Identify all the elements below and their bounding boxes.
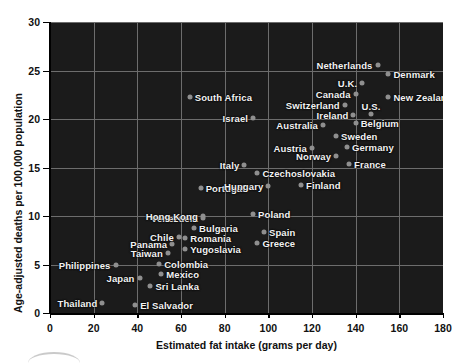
data-point [187,94,192,99]
data-point [360,81,365,86]
x-tick-label: 20 [88,322,100,334]
page-artifact-mark [28,352,80,363]
data-point [251,212,256,217]
y-axis-line [49,22,51,314]
data-point [157,261,162,266]
y-tick [43,168,49,169]
x-tick [225,313,226,318]
data-point-label: Thailand [58,298,98,309]
gridline-vertical [399,22,400,313]
data-point-label: U.S. [361,101,380,112]
data-point [375,62,380,67]
data-point-label: Ireland [317,110,349,121]
y-tick-label: 30 [28,16,40,28]
x-tick [94,313,95,318]
data-point-label: Hong Kong [146,211,198,222]
data-point [100,301,105,306]
data-point [353,91,358,96]
data-point [198,185,203,190]
scatter-plot-figure: ThailandEl SalvadorSri LankaJapanMexicoP… [0,0,453,364]
data-point [159,272,164,277]
data-point [310,146,315,151]
data-point [255,241,260,246]
data-point [347,161,352,166]
x-axis-title: Estimated fat intake (grams per day) [50,339,443,351]
gridline-horizontal [50,216,443,217]
data-point-label: Netherlands [316,59,372,70]
data-point-label: Hungary [224,180,263,191]
data-point [242,162,247,167]
data-point-label: Japan [107,273,135,284]
data-point [353,120,358,125]
y-tick-label: 0 [34,307,40,319]
x-tick-label: 100 [260,322,278,334]
data-point-label: Romania [190,233,231,244]
x-tick [443,313,444,318]
data-point [200,214,205,219]
y-tick [43,265,49,266]
data-point-label: Belgium [361,117,399,128]
y-tick-label: 5 [34,259,40,271]
data-point-label: Colombia [164,258,208,269]
data-point-label: Greece [262,238,295,249]
data-point-label: Czechoslovakia [262,168,335,179]
x-tick [312,313,313,318]
data-point-label: Germany [352,142,394,153]
x-tick [399,313,400,318]
x-tick-label: 80 [219,322,231,334]
gridline-horizontal [50,22,443,23]
data-point [192,225,197,230]
data-point [183,236,188,241]
x-tick-label: 0 [47,322,53,334]
data-point-label: Spain [269,226,295,237]
data-point [176,235,181,240]
data-point-label: Sri Lanka [155,280,199,291]
x-tick [137,313,138,318]
data-point [320,122,325,127]
data-point [183,246,188,251]
data-point-label: Poland [258,209,290,220]
y-tick [43,22,49,23]
data-point [148,283,153,288]
x-tick [356,313,357,318]
data-point [255,171,260,176]
data-point [344,145,349,150]
data-point-label: U.K. [338,78,357,89]
data-point-label: Yugoslavia [190,243,241,254]
data-point [342,103,347,108]
data-point-label: Mexico [166,269,199,280]
x-tick-label: 140 [347,322,365,334]
data-point [266,183,271,188]
data-point-label: Austria [274,143,307,154]
x-tick-label: 160 [391,322,409,334]
data-point-label: Italy [220,159,240,170]
data-point [334,134,339,139]
data-point [299,182,304,187]
data-point [351,113,356,118]
x-tick [50,313,51,318]
y-tick [43,71,49,72]
data-point [386,94,391,99]
x-tick-label: 180 [434,322,452,334]
data-point-label: France [354,158,386,169]
y-tick [43,119,49,120]
data-point-label: El Salvador [140,300,193,311]
plot-area: ThailandEl SalvadorSri LankaJapanMexicoP… [50,22,443,313]
data-point-label: Israel [223,113,248,124]
data-point [113,262,118,267]
y-tick-label: 10 [28,210,40,222]
y-axis-title: Age-adjusted deaths per 100,000 populati… [12,93,24,313]
data-point-label: Sweden [341,131,378,142]
data-point [165,250,170,255]
y-tick-label: 15 [28,162,40,174]
data-point-label: Australia [276,119,318,130]
gridline-horizontal [50,71,443,72]
data-point [137,276,142,281]
data-point-label: Finland [306,179,340,190]
data-point [368,112,373,117]
data-point-label: New Zealand [393,91,443,102]
data-point [386,72,391,77]
data-point-label: Canada [316,88,351,99]
y-tick [43,313,49,314]
x-tick [181,313,182,318]
